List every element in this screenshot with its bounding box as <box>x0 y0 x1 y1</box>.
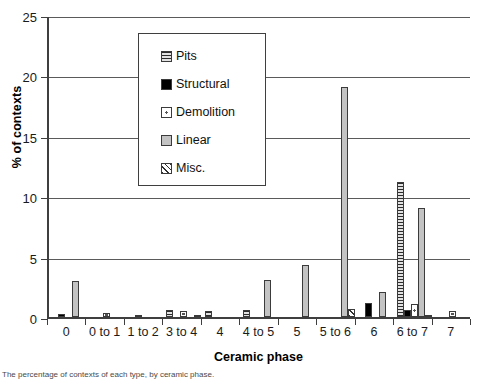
legend-swatch-icon <box>161 135 172 146</box>
x-tick-label: 4 <box>217 325 224 339</box>
x-tick-mark <box>239 319 240 325</box>
legend-item: Linear <box>161 126 265 154</box>
x-tick-mark <box>393 319 394 325</box>
x-tick-label: 4 to 5 <box>243 325 274 339</box>
bar <box>166 310 173 317</box>
x-tick-mark <box>47 319 48 325</box>
bar <box>379 292 386 317</box>
x-tick-label: 0 to 1 <box>89 325 120 339</box>
bar <box>449 311 456 317</box>
figure-caption: The percentage of contexts of each type,… <box>0 370 485 379</box>
x-tick-mark <box>201 319 202 325</box>
legend-item: Structural <box>161 70 265 98</box>
legend-swatch-icon <box>161 51 172 62</box>
bar <box>243 310 250 317</box>
x-tick-label: 7 <box>447 325 454 339</box>
y-axis-tick-labels: 0510152025 <box>0 0 47 336</box>
x-tick-label: 1 to 2 <box>127 325 158 339</box>
legend-label: Linear <box>176 134 211 147</box>
bar <box>264 280 271 317</box>
x-tick-mark <box>316 319 317 325</box>
legend-label: Pits <box>176 50 197 63</box>
legend-item: Misc. <box>161 154 265 182</box>
x-tick-mark <box>355 319 356 325</box>
bar <box>397 182 404 317</box>
x-tick-label: 5 <box>293 325 300 339</box>
legend-label: Structural <box>176 78 230 91</box>
bar <box>365 303 372 317</box>
x-tick-label: 5 to 6 <box>320 325 351 339</box>
x-tick-mark <box>85 319 86 325</box>
bar <box>72 281 79 317</box>
legend-item: Demolition <box>161 98 265 126</box>
bar <box>58 314 65 317</box>
bar <box>348 309 355 317</box>
x-tick-label: 3 to 4 <box>166 325 197 339</box>
legend-label: Misc. <box>176 162 205 175</box>
legend-swatch-icon <box>161 163 172 174</box>
chart-legend: PitsStructuralDemolitionLinearMisc. <box>138 33 266 186</box>
legend-item: Pits <box>161 42 265 70</box>
gridline <box>49 259 470 260</box>
x-tick-mark <box>162 319 163 325</box>
y-tick-label: 0 <box>30 313 37 326</box>
x-tick-label: 6 to 7 <box>397 325 428 339</box>
legend-swatch-icon <box>161 79 172 90</box>
y-tick-label: 25 <box>23 11 37 24</box>
bar <box>425 315 432 317</box>
bar <box>180 311 187 317</box>
x-axis-title: Ceramic phase <box>47 350 470 364</box>
bar <box>103 313 110 317</box>
bar <box>205 311 212 317</box>
legend-label: Demolition <box>176 106 235 119</box>
x-axis-tick-labels: 00 to 11 to 23 to 444 to 555 to 666 to 7… <box>47 325 470 347</box>
bar <box>194 315 201 317</box>
y-tick-label: 5 <box>30 252 37 265</box>
bar <box>135 315 142 317</box>
legend-swatch-icon <box>161 107 172 118</box>
chart-figure: % of contexts 0510152025 00 to 11 to 23 … <box>0 0 485 390</box>
y-tick-label: 15 <box>23 131 37 144</box>
x-tick-mark <box>278 319 279 325</box>
bar <box>404 310 411 317</box>
bar <box>341 87 348 317</box>
y-tick-label: 20 <box>23 71 37 84</box>
bar <box>302 265 309 317</box>
x-tick-mark <box>470 319 471 325</box>
x-tick-mark <box>432 319 433 325</box>
bar <box>411 304 418 317</box>
gridline <box>49 17 470 18</box>
x-tick-mark <box>124 319 125 325</box>
bar <box>418 208 425 317</box>
gridline <box>49 198 470 199</box>
x-tick-label: 0 <box>63 325 70 339</box>
x-tick-label: 6 <box>370 325 377 339</box>
y-tick-label: 10 <box>23 192 37 205</box>
